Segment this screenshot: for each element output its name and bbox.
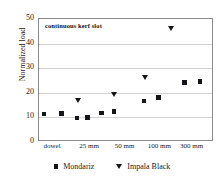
y-tick-label: 10 xyxy=(12,111,34,120)
data-point-triangle xyxy=(142,75,148,80)
legend-label-0: Mondariz xyxy=(63,162,94,171)
chart-legend: Mondariz Impala Black xyxy=(0,162,224,171)
chart-figure: Normalized load 01020304050 continuous k… xyxy=(0,0,224,180)
data-point-triangle xyxy=(75,98,81,103)
y-tick-label: 40 xyxy=(12,38,34,47)
gridline xyxy=(39,93,212,94)
y-tick-label: 30 xyxy=(12,62,34,71)
y-tick-label: 20 xyxy=(12,87,34,96)
data-point-square xyxy=(99,111,104,116)
triangle-down-marker-icon xyxy=(116,164,122,169)
data-point-square xyxy=(59,111,64,116)
data-point-triangle xyxy=(111,92,117,97)
data-point-square xyxy=(156,95,161,100)
plot-area: continuous kerf slot xyxy=(38,18,213,141)
y-tick-label: 0 xyxy=(12,136,34,145)
data-point-square xyxy=(42,112,47,117)
x-tick-label: 300 mm xyxy=(172,142,212,150)
square-marker-icon xyxy=(54,164,59,169)
gridline xyxy=(39,44,212,45)
data-point-square xyxy=(198,79,203,84)
legend-label-1: Impala Black xyxy=(127,162,170,171)
data-point-square xyxy=(85,115,90,120)
x-tick-label: dowel xyxy=(32,142,72,150)
plot-annotation: continuous kerf slot xyxy=(45,22,102,29)
data-point-square xyxy=(112,109,117,114)
gridline xyxy=(39,117,212,118)
data-point-square xyxy=(142,99,147,104)
x-tick-label: 25 mm xyxy=(69,142,109,150)
gridline xyxy=(39,68,212,69)
data-point-triangle xyxy=(168,26,174,31)
legend-item-1: Impala Black xyxy=(116,162,170,171)
y-tick-label: 50 xyxy=(12,13,34,22)
data-point-square xyxy=(182,80,187,85)
data-point-square xyxy=(75,116,80,121)
legend-item-0: Mondariz xyxy=(54,162,95,171)
